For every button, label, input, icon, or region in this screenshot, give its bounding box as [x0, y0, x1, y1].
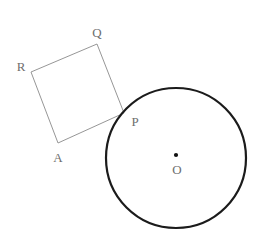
square-shape: [31, 44, 124, 143]
circle-shape: [106, 88, 246, 228]
vertex-label-R: R: [17, 60, 26, 73]
vertex-label-P: P: [131, 115, 138, 128]
vertex-label-Q: Q: [92, 26, 101, 39]
vertex-label-A: A: [53, 151, 62, 164]
center-point-dot: [174, 153, 178, 157]
center-label-O: O: [172, 163, 181, 176]
geometry-diagram-canvas: Q R A P O: [0, 0, 261, 250]
